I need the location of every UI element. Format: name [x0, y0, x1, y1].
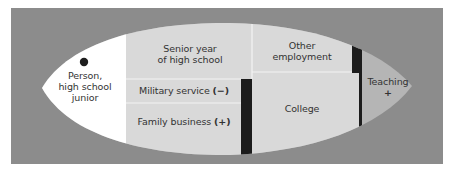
region-other-employment: Other employment — [256, 40, 348, 62]
college-label: College — [285, 103, 320, 114]
region-teaching: Teaching + — [362, 76, 414, 98]
region-family-business: Family business (+) — [128, 116, 240, 127]
family-business-label: Family business — [138, 116, 212, 127]
other-employment-line1: Other — [256, 40, 348, 51]
region-senior-year: Senior year of high school — [130, 43, 250, 65]
teaching-valence: + — [362, 87, 414, 98]
military-valence: (−) — [213, 85, 229, 96]
family-business-valence: (+) — [214, 116, 230, 127]
military-label: Military service — [139, 85, 210, 96]
region-college: College — [256, 103, 348, 114]
person-label-line1: Person, — [54, 70, 116, 81]
region-military-service: Military service (−) — [128, 85, 240, 96]
senior-year-line2: of high school — [130, 54, 250, 65]
person-dot-icon — [80, 58, 88, 66]
other-employment-line2: employment — [256, 51, 348, 62]
person-label-line3: junior — [54, 92, 116, 103]
senior-year-line1: Senior year — [130, 43, 250, 54]
barrier-college — [241, 79, 252, 159]
person-label-line2: high school — [54, 81, 116, 92]
person-label: Person, high school junior — [54, 70, 116, 103]
teaching-label: Teaching — [362, 76, 414, 87]
